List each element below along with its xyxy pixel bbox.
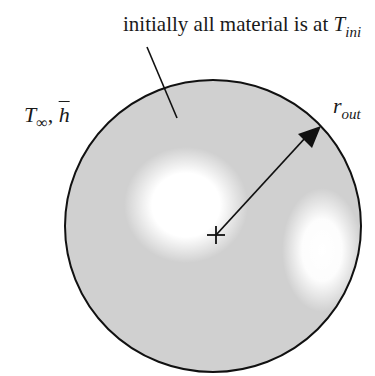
initial-condition-label: initially all material is at Tini: [123, 14, 361, 35]
boundary-separator: ,: [48, 102, 59, 127]
initial-temp-symbol: T: [334, 12, 346, 36]
ambient-temp-symbol: T: [24, 102, 36, 127]
sphere-diagram: [0, 0, 375, 376]
heat-transfer-coefficient-symbol: h: [59, 102, 70, 127]
initial-temp-subscript: ini: [345, 24, 361, 40]
boundary-condition-label: T∞, h: [24, 104, 70, 126]
initial-condition-text: initially all material is at: [123, 12, 334, 36]
radius-symbol: r: [333, 93, 342, 118]
radius-label: rout: [333, 95, 361, 117]
radius-subscript: out: [342, 106, 361, 122]
ambient-temp-subscript: ∞: [36, 114, 47, 131]
